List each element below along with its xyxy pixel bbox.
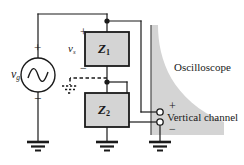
vertical-channel-label: Vertical channel: [167, 112, 238, 123]
voltage-vs-label: vs: [68, 43, 76, 56]
oscilloscope-title: Oscilloscope: [174, 62, 231, 73]
impedance-z1-subscript: 1: [106, 48, 110, 57]
terminal-minus: [157, 119, 163, 125]
impedance-z2-subscript: 2: [106, 109, 110, 118]
circuit-diagram-figure: vg + − Z1 vs + − Z2 Oscilloscope Vertica…: [0, 0, 244, 165]
ground-symbol-z2: [96, 142, 118, 151]
ac-voltage-source: [21, 58, 55, 92]
source-plus-sign: +: [34, 41, 41, 54]
junction-dot-top: [104, 18, 109, 23]
ground-symbol-scope: [149, 142, 171, 151]
junction-dot-mid: [104, 79, 109, 84]
ground-symbol-reference: [62, 86, 78, 93]
terminal-plus: [157, 109, 163, 115]
source-label: vg: [11, 68, 20, 82]
voltage-vs-subscript: s: [73, 48, 76, 55]
source-minus-sign: −: [34, 92, 41, 105]
z1-minus-sign: −: [80, 62, 87, 74]
circuit-svg: [0, 0, 244, 165]
ground-symbol-source: [27, 142, 49, 151]
source-label-subscript: g: [16, 73, 20, 82]
z1-plus-sign: +: [80, 26, 87, 38]
channel-minus-sign: −: [169, 123, 176, 135]
impedance-z1-label: Z1: [98, 42, 110, 57]
dashed-reference-link: [70, 78, 107, 85]
impedance-z2-label: Z2: [98, 103, 110, 118]
channel-plus-sign: +: [169, 100, 176, 112]
